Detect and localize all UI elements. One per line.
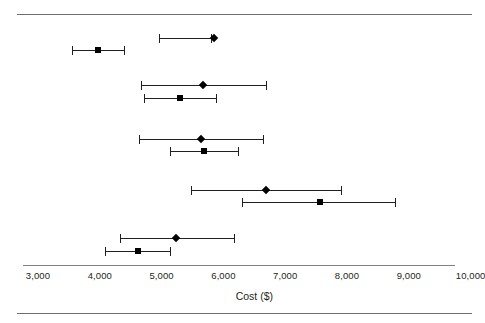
x-axis-line	[23, 265, 455, 266]
interval-cap-high	[238, 147, 239, 156]
interval-row-4-diamond	[191, 185, 341, 196]
interval-row-3-square	[170, 146, 238, 157]
interval-cap-low	[242, 198, 243, 207]
interval-cap-low	[72, 46, 73, 55]
x-tick-label-8000: 8,000	[335, 270, 359, 281]
interval-row-2-square	[144, 93, 216, 104]
interval-row-4-square	[242, 197, 395, 208]
x-tick-label-4000: 4,000	[88, 270, 112, 281]
interval-cap-low	[170, 147, 171, 156]
interval-cap-high	[341, 186, 342, 195]
point-estimate-square-marker	[201, 148, 207, 154]
point-estimate-diamond-marker	[172, 234, 180, 242]
bottom-divider-rule	[17, 313, 472, 314]
point-estimate-square-marker	[177, 95, 183, 101]
top-divider-rule	[17, 14, 472, 15]
x-tick-label-7000: 7,000	[273, 270, 297, 281]
point-estimate-diamond-marker	[197, 135, 205, 143]
point-estimate-diamond-marker	[262, 186, 270, 194]
x-axis-title: Cost ($)	[236, 290, 273, 302]
point-estimate-square-marker	[95, 47, 101, 53]
interval-row-3-diamond	[139, 134, 263, 145]
interval-row-1-square	[72, 45, 124, 56]
interval-row-1-diamond	[159, 33, 211, 44]
x-tick-label-3000: 3,000	[26, 270, 50, 281]
interval-cap-high	[395, 198, 396, 207]
interval-cap-high	[234, 234, 235, 243]
x-tick-label-6000: 6,000	[211, 270, 235, 281]
interval-cap-low	[159, 34, 160, 43]
interval-cap-low	[139, 135, 140, 144]
interval-cap-low	[141, 81, 142, 90]
point-estimate-square-marker	[135, 248, 141, 254]
interval-cap-low	[120, 234, 121, 243]
interval-cap-high	[266, 81, 267, 90]
x-tick-label-5000: 5,000	[149, 270, 173, 281]
interval-cap-low	[105, 247, 106, 256]
interval-cap-high	[263, 135, 264, 144]
interval-cap-high	[124, 46, 125, 55]
point-estimate-square-marker	[317, 199, 323, 205]
point-estimate-diamond-marker	[199, 81, 207, 89]
interval-cap-high	[170, 247, 171, 256]
interval-cap-low	[191, 186, 192, 195]
interval-row-5-diamond	[120, 233, 234, 244]
x-tick-label-9000: 9,000	[397, 270, 421, 281]
interval-row-2-diamond	[141, 80, 266, 91]
interval-cap-low	[144, 94, 145, 103]
x-tick-label-10000: 10,000	[456, 270, 485, 281]
confidence-interval-line	[159, 38, 211, 39]
interval-row-5-square	[105, 246, 170, 257]
interval-cap-high	[216, 94, 217, 103]
